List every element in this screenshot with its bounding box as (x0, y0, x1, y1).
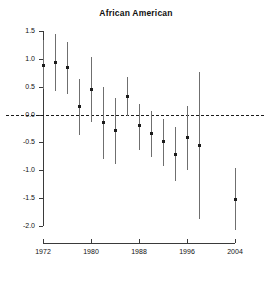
y-axis-tick (39, 226, 43, 227)
point-estimate-marker (90, 88, 93, 91)
point-estimate-marker (150, 132, 153, 135)
x-axis-tick-label: 1980 (76, 248, 106, 255)
point-estimate-marker (234, 198, 237, 201)
point-estimate-marker (54, 61, 57, 64)
point-estimate-marker (102, 121, 105, 124)
x-axis-tick (187, 239, 188, 243)
y-axis-tick-label: -1.5 (9, 194, 35, 201)
point-estimate-marker (162, 140, 165, 143)
x-axis-tick (235, 239, 236, 243)
x-axis-line (43, 243, 235, 244)
point-estimate-marker (78, 105, 81, 108)
point-estimate-marker (138, 124, 141, 127)
point-estimate-marker (42, 64, 45, 67)
x-axis-tick-label: 2004 (220, 248, 250, 255)
point-estimate-marker (174, 153, 177, 156)
x-axis-tick (43, 239, 44, 243)
point-estimate-marker (198, 144, 201, 147)
y-axis-tick-label: 1.0 (9, 55, 35, 62)
y-axis-tick (39, 198, 43, 199)
y-axis-tick-label: -0.5 (9, 138, 35, 145)
zero-reference-line (6, 115, 264, 116)
x-axis-tick-label: 1972 (28, 248, 58, 255)
x-axis-tick-label: 1988 (124, 248, 154, 255)
x-axis-tick (139, 239, 140, 243)
x-axis-tick (91, 239, 92, 243)
point-estimate-marker (126, 95, 129, 98)
chart-container: African American 1.51.00.50.0-0.5-1.0-1.… (0, 0, 272, 282)
plot-area: 1.51.00.50.0-0.5-1.0-1.5-2.0197219801988… (0, 0, 272, 282)
y-axis-tick (39, 170, 43, 171)
y-axis-tick-label: -1.0 (9, 166, 35, 173)
point-estimate-marker (66, 66, 69, 69)
y-axis-tick-label: 1.5 (9, 27, 35, 34)
point-estimate-marker (186, 136, 189, 139)
point-estimate-marker (114, 129, 117, 132)
y-axis-tick-label: 0.5 (9, 83, 35, 90)
x-axis-tick-label: 1996 (172, 248, 202, 255)
y-axis-tick (39, 31, 43, 32)
y-axis-tick (39, 142, 43, 143)
y-axis-tick-label: -2.0 (9, 222, 35, 229)
